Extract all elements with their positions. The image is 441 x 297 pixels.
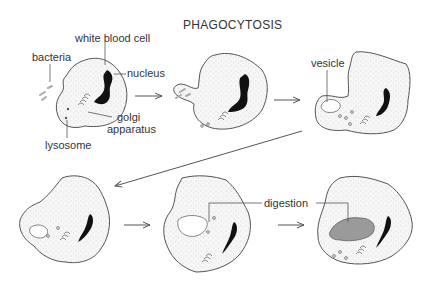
stage-6-cell <box>318 176 413 264</box>
diagram-title: PHAGOCYTOSIS <box>183 18 282 32</box>
label-nucleus: nucleus <box>127 68 165 79</box>
stage-2-cell <box>174 53 268 129</box>
label-white-blood-cell: white blood cell <box>75 33 150 44</box>
label-golgi: golgi <box>117 112 140 123</box>
label-digestion: digestion <box>264 198 308 209</box>
label-bacteria: bacteria <box>32 52 71 63</box>
label-vesicle: vesicle <box>311 58 345 69</box>
stage-4-cell <box>20 176 110 263</box>
stage-1-cell <box>40 58 127 127</box>
label-lysosome: lysosome <box>45 140 91 151</box>
stage-5-cell <box>164 176 251 272</box>
label-apparatus: apparatus <box>107 124 156 135</box>
